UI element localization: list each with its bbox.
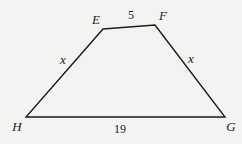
vertex-label-f: F: [158, 8, 168, 23]
vertex-label-g: G: [226, 119, 236, 134]
side-label-fg: x: [187, 51, 194, 66]
vertex-label-h: H: [11, 119, 22, 134]
trapezoid-diagram: E F G H 5 x 19 x: [0, 0, 242, 144]
diagram-svg: E F G H 5 x 19 x: [0, 0, 242, 144]
vertex-label-e: E: [91, 12, 100, 27]
side-label-ef: 5: [128, 8, 134, 22]
side-label-he: x: [59, 52, 66, 67]
trapezoid-efgh: [26, 25, 225, 117]
side-label-gh: 19: [114, 122, 126, 136]
